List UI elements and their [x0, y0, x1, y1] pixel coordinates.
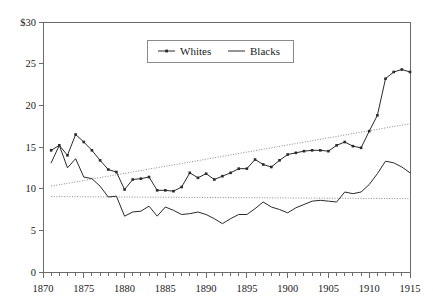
trend-line-blacks [51, 197, 410, 199]
data-point-whites-1898 [270, 166, 273, 169]
x-axis-label-1885: 1885 [155, 283, 176, 294]
data-point-whites-1903 [311, 149, 314, 152]
y-axis-label-15: 15 [26, 142, 37, 153]
legend-label-whites: Whites [180, 45, 211, 57]
data-point-whites-1911 [376, 114, 379, 117]
data-point-whites-1894 [237, 167, 240, 170]
line-chart: 0510152025$30 18701875188018851890189519… [0, 0, 433, 303]
data-point-whites-1874 [74, 133, 77, 136]
x-axis-label-1905: 1905 [318, 283, 339, 294]
data-point-whites-1895 [246, 167, 249, 170]
y-axis-label-10: 10 [26, 183, 37, 194]
y-axis-labels: 0510152025$30 [20, 17, 36, 278]
x-axis-label-1890: 1890 [196, 283, 217, 294]
y-axis-label-25: 25 [26, 58, 37, 69]
data-point-whites-1881 [131, 178, 134, 181]
data-point-whites-1873 [66, 154, 69, 157]
data-point-whites-1880 [123, 188, 126, 191]
data-point-whites-1905 [327, 150, 330, 153]
x-axis-labels: 1870187518801885189018951900190519101915 [33, 283, 421, 294]
x-axis-label-1895: 1895 [236, 283, 257, 294]
data-point-whites-1914 [401, 68, 404, 71]
data-point-whites-1888 [189, 172, 192, 175]
data-series-group [51, 70, 410, 224]
trend-line-whites [51, 124, 410, 187]
data-point-whites-1901 [295, 152, 298, 155]
data-point-whites-1909 [360, 147, 363, 150]
data-point-whites-1900 [286, 153, 289, 156]
data-point-whites-1883 [148, 176, 151, 179]
data-point-whites-1872 [58, 144, 61, 147]
data-point-whites-1897 [262, 163, 265, 166]
data-point-whites-1899 [278, 159, 281, 162]
x-axis-label-1880: 1880 [114, 283, 135, 294]
data-point-whites-1884 [156, 189, 159, 192]
data-point-whites-1910 [368, 130, 371, 133]
data-point-whites-1906 [335, 144, 338, 147]
data-point-whites-1877 [99, 159, 102, 162]
x-axis-label-1900: 1900 [277, 283, 298, 294]
data-point-whites-1913 [392, 71, 395, 74]
data-point-whites-1871 [50, 149, 53, 152]
data-point-whites-1912 [384, 77, 387, 80]
data-point-whites-1904 [319, 149, 322, 152]
data-point-whites-1908 [352, 145, 355, 148]
legend-label-blacks: Blacks [250, 45, 280, 57]
x-axis-label-1910: 1910 [359, 283, 380, 294]
data-point-whites-1890 [205, 172, 208, 175]
x-axis-label-1875: 1875 [73, 283, 94, 294]
data-point-whites-1878 [107, 168, 110, 171]
data-point-whites-1889 [197, 177, 200, 180]
data-point-whites-1879 [115, 171, 118, 174]
y-axis-label-30: $30 [20, 17, 36, 28]
data-point-whites-1882 [140, 177, 143, 180]
trend-lines-group [51, 124, 410, 199]
data-point-whites-1876 [91, 149, 94, 152]
y-axis-tick-marks [39, 22, 43, 272]
data-point-whites-1896 [254, 158, 257, 161]
legend-marker-whites [165, 50, 168, 53]
data-point-whites-1902 [303, 150, 306, 153]
data-point-whites-1887 [180, 186, 183, 189]
chart-legend: WhitesBlacks [147, 40, 293, 62]
data-point-whites-1875 [82, 141, 85, 144]
chart-container: 0510152025$30 18701875188018851890189519… [0, 0, 433, 303]
y-axis-label-20: 20 [26, 100, 37, 111]
x-axis-label-1915: 1915 [400, 283, 421, 294]
data-point-whites-1893 [229, 172, 232, 175]
series-line-blacks [51, 145, 410, 223]
y-axis-label-0: 0 [31, 267, 36, 278]
data-point-whites-1892 [221, 175, 224, 178]
x-axis-label-1870: 1870 [33, 283, 54, 294]
data-point-whites-1915 [409, 71, 412, 74]
data-point-whites-1891 [213, 178, 216, 181]
data-point-whites-1886 [172, 190, 175, 193]
data-point-whites-1885 [164, 189, 167, 192]
data-markers-group [50, 68, 411, 192]
y-axis-label-5: 5 [31, 225, 36, 236]
x-axis-tick-marks [43, 272, 410, 278]
data-point-whites-1907 [343, 141, 346, 144]
